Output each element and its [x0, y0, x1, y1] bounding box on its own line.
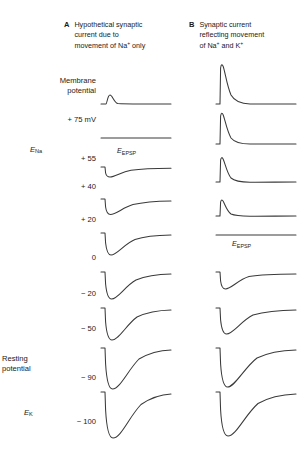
ena-symbol: ENa [30, 135, 42, 155]
row-value-75: + 75 mV [8, 115, 96, 125]
figure-synaptic-current: A Hypothetical synaptic current due to m… [0, 0, 306, 467]
ek-symbol: EK [24, 398, 33, 418]
trace-a-0 [101, 229, 171, 263]
row-value-minus50: − 50 [8, 324, 96, 334]
row-label-75: Membrane potential + 75 mV [8, 96, 96, 134]
row-label-20: + 20 [8, 205, 96, 234]
trace-b-minus20 [216, 268, 296, 300]
row-value-20: + 20 [8, 215, 96, 225]
row-value-minus90: − 90 [8, 373, 96, 383]
row-value-55: + 55 [8, 154, 96, 164]
trace-b-minus100 [216, 388, 296, 444]
trace-b-0 [216, 229, 296, 249]
row-value-40: + 40 [8, 182, 96, 192]
trace-a-40 [101, 162, 171, 188]
panel-b-letter: B [189, 20, 194, 30]
row-label-40: + 40 [8, 172, 96, 201]
panel-b-header: B Synaptic current reflecting movement o… [189, 20, 301, 51]
eepsp-label-panel-b: EEPSP [232, 239, 251, 248]
row-label-minus20: − 20 [8, 279, 96, 308]
trace-b-20 [216, 192, 296, 220]
panel-a-title: Hypothetical synaptic current due to mov… [74, 20, 145, 51]
trace-b-55 [216, 108, 296, 148]
trace-a-minus20 [101, 268, 171, 306]
row-label-minus90: Resting potential − 90 [8, 354, 96, 392]
row-value-minus20: − 20 [8, 289, 96, 299]
row-value-0: 0 [8, 253, 96, 263]
eepsp-label-panel-a: EEPSP [117, 146, 136, 155]
resting-potential-label: Resting potential [2, 354, 50, 373]
trace-a-20 [101, 195, 171, 225]
panel-a-letter: A [64, 20, 69, 30]
trace-a-minus100 [101, 388, 171, 444]
panel-b-title: Synaptic current reflecting movement of … [199, 20, 264, 51]
trace-a-minus50 [101, 304, 171, 346]
trace-b-75 [216, 62, 296, 108]
row-label-minus50: − 50 [8, 314, 96, 343]
trace-b-40 [216, 152, 296, 186]
row-value-minus100: − 100 [8, 417, 96, 427]
trace-a-55 [101, 126, 171, 146]
row-label-0: 0 [8, 243, 96, 272]
membrane-potential-label: Membrane potential [8, 76, 96, 95]
trace-b-minus90 [216, 344, 296, 394]
row-label-55: ENa + 55 [8, 135, 96, 173]
row-label-minus100: EK − 100 [8, 398, 96, 436]
panel-a-header: A Hypothetical synaptic current due to m… [64, 20, 174, 51]
trace-b-minus50 [216, 304, 296, 344]
trace-a-minus90 [101, 344, 171, 394]
trace-a-75 [101, 82, 171, 108]
